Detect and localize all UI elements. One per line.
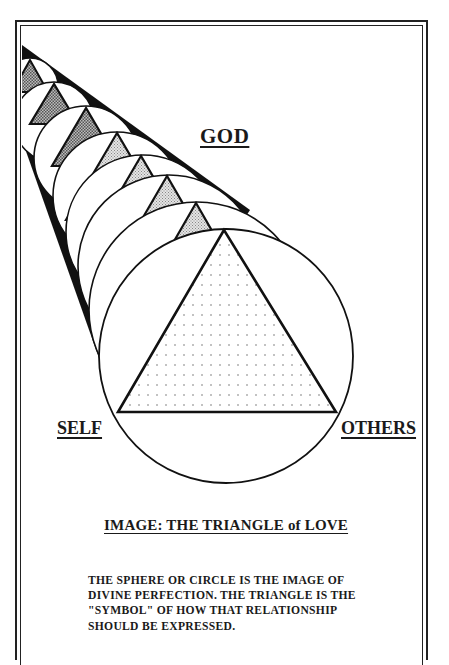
label-self: SELF <box>57 418 102 439</box>
figure-caption: IMAGE: THE TRIANGLE of LOVE <box>104 517 348 534</box>
description-line: SHOULD BE EXPRESSED. <box>88 619 388 634</box>
label-god: GOD <box>200 124 249 149</box>
description-text: THE SPHERE OR CIRCLE IS THE IMAGE OF DIV… <box>88 573 388 634</box>
description-line: DIVINE PERFECTION. THE TRIANGLE IS THE <box>88 588 388 603</box>
main-circle-group <box>99 229 353 483</box>
label-others: OTHERS <box>341 418 416 439</box>
description-line: THE SPHERE OR CIRCLE IS THE IMAGE OF <box>88 573 388 588</box>
description-line: "SYMBOL" OF HOW THAT RELATIONSHIP <box>88 603 388 618</box>
